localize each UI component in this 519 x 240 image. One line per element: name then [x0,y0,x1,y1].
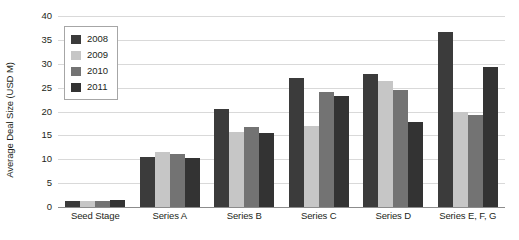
bar-slot [468,16,483,207]
legend-label: 2011 [87,82,107,92]
x-axis-tick-labels: Seed StageSeries ASeries BSeries CSeries… [58,210,505,230]
bar-slot [483,16,498,207]
bar [304,126,319,207]
plot-area [58,16,505,207]
y-tick-label: 20 [32,107,52,117]
legend-item[interactable]: 2010 [71,64,108,78]
bar-slot [453,16,468,207]
bar [244,127,259,207]
legend-item[interactable]: 2008 [71,32,108,46]
bar [80,201,95,207]
bar [289,78,304,207]
bar [408,122,423,207]
x-tick-label: Seed Stage [58,210,133,230]
bar [155,152,170,207]
bar-slot [140,16,155,207]
legend-item[interactable]: 2009 [71,48,108,62]
y-axis-title: Average Deal Size (USD M) [0,0,18,240]
bar-slot [244,16,259,207]
bar-slot [438,16,453,207]
bar [185,158,200,207]
bar-slot [334,16,349,207]
y-tick-label: 10 [32,155,52,165]
x-tick-label: Series B [207,210,282,230]
bar [363,74,378,207]
legend-label: 2009 [87,50,108,60]
bar-slot [229,16,244,207]
x-tick-label: Series D [356,210,431,230]
bar [110,200,125,207]
bar [95,201,110,207]
bar [334,96,349,207]
legend-item[interactable]: 2011 [71,80,108,94]
bar-slot [408,16,423,207]
x-tick-label: Series C [282,210,357,230]
bar [319,92,334,207]
bar-slot [155,16,170,207]
bar-group [282,16,357,207]
y-tick-label: 15 [32,131,52,141]
y-tick-label: 5 [32,178,52,188]
bar [229,132,244,207]
bar [259,133,274,207]
bar-slot [363,16,378,207]
bar-chart: Average Deal Size (USD M) 40353025201510… [0,0,519,240]
bar-group [133,16,208,207]
bar-slot [170,16,185,207]
legend-label: 2010 [87,66,108,76]
legend-swatch-icon [71,35,81,44]
bar [214,109,229,207]
bar-slot [289,16,304,207]
y-tick-label: 30 [32,59,52,69]
bar [378,81,393,207]
y-tick-label: 0 [32,202,52,212]
bar-group [207,16,282,207]
y-axis-tick-labels: 4035302520151050 [30,16,52,207]
x-tick-label: Series A [133,210,208,230]
axis-baseline [58,207,505,208]
x-tick-label: Series E, F, G [431,210,506,230]
legend-label: 2008 [87,34,108,44]
bar-group [431,16,506,207]
legend-swatch-icon [71,67,81,76]
bar-group [356,16,431,207]
bar-slot [393,16,408,207]
y-tick-label: 25 [32,83,52,93]
y-tick-label: 35 [32,35,52,45]
bar [453,112,468,208]
bar [483,67,498,207]
bar-slot [319,16,334,207]
legend: 2008200920102011 [64,26,118,100]
bar [170,154,185,207]
legend-swatch-icon [71,83,81,92]
bar-groups [58,16,505,207]
bar-slot [185,16,200,207]
bar-slot [304,16,319,207]
y-tick-label: 40 [32,11,52,21]
bar-slot [259,16,274,207]
bar [393,90,408,207]
legend-swatch-icon [71,51,81,60]
bar-slot [214,16,229,207]
bar [65,201,80,207]
bar [438,32,453,207]
bar [468,115,483,207]
bar-slot [378,16,393,207]
bar [140,157,155,207]
